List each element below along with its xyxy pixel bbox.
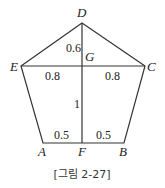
measure-af: 0.5 [54,128,69,142]
measure-fb: 0.5 [96,128,111,142]
pentagon-outline [21,23,145,143]
point-label-d: D [76,5,87,20]
point-label-e: E [9,59,18,74]
measure-gc: 0.8 [105,69,120,83]
measure-dg: 0.6 [66,41,81,55]
pentagon-diagram: D E C A F B G 0.6 0.8 0.8 1 0.5 0.5 [그림 … [0,0,165,188]
point-label-f: F [77,144,87,159]
point-label-c: C [147,59,156,74]
measure-eg: 0.8 [45,69,60,83]
figure-caption: [그림 2-27] [53,168,110,181]
point-label-a: A [37,144,46,159]
point-label-g: G [85,49,95,64]
point-label-b: B [119,144,127,159]
measure-gf: 1 [74,97,80,111]
